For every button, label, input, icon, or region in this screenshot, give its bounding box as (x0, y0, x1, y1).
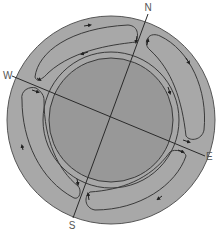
label-north: N (144, 2, 151, 13)
label-east: E (206, 151, 213, 162)
label-south: S (69, 220, 76, 231)
inner-disk (49, 58, 173, 182)
circulation-diagram: N W E S (0, 0, 220, 231)
label-west: W (3, 70, 13, 81)
